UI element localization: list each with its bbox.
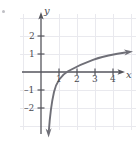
tick-label-x-3: 3 [92, 75, 98, 84]
tick-label-y-neg1: –1 [24, 86, 34, 95]
tick-label-y-2: 2 [29, 32, 35, 41]
tick-label-x-1: 1 [56, 75, 62, 84]
coordinate-plane-svg [0, 0, 136, 141]
graph-figure: y x 1 2 3 4 2 1 –1 –2 [0, 0, 136, 141]
x-axis-label: x [126, 70, 132, 80]
tick-label-y-1: 1 [29, 50, 35, 59]
y-axis-label: y [44, 6, 50, 16]
log-curve [49, 52, 127, 131]
tick-label-x-4: 4 [110, 75, 116, 84]
tick-label-y-neg2: –2 [24, 104, 34, 113]
tick-label-x-2: 2 [74, 75, 80, 84]
